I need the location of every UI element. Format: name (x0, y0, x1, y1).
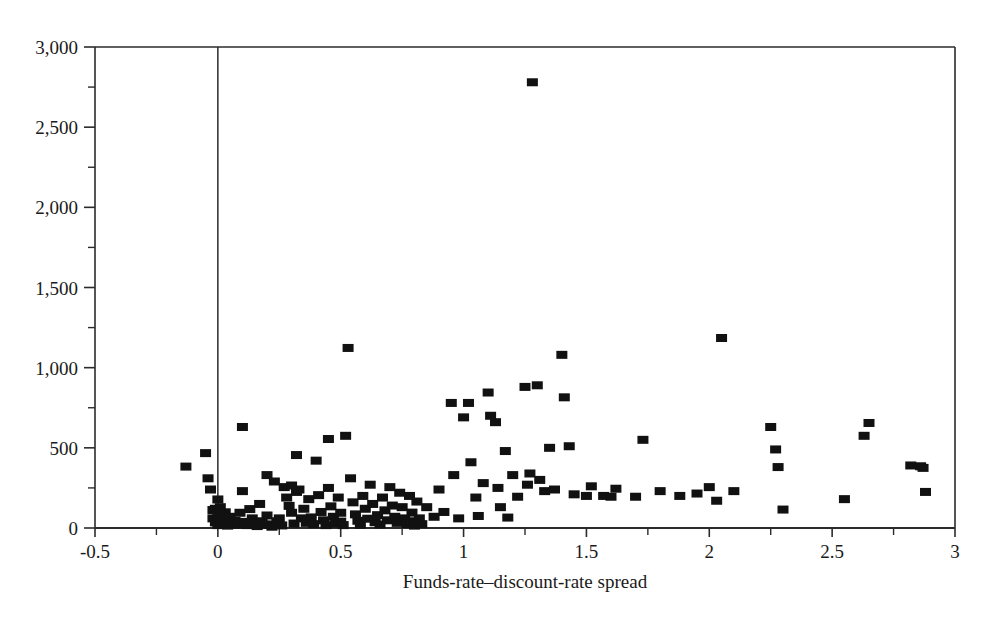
data-point (205, 486, 216, 494)
data-point (692, 490, 703, 498)
data-point (905, 461, 916, 469)
data-point (716, 334, 727, 342)
data-point (711, 497, 722, 505)
data-point (463, 399, 474, 407)
y-tick-label-0: 0 (69, 518, 79, 539)
data-point (397, 503, 408, 511)
data-point (581, 492, 592, 500)
axis-ticks (84, 47, 955, 537)
x-tick-label-3: 1 (459, 541, 469, 562)
data-point (316, 508, 327, 516)
data-point (180, 463, 191, 471)
data-point (918, 464, 929, 472)
data-point (492, 484, 503, 492)
data-point (458, 413, 469, 421)
data-point (549, 486, 560, 494)
data-point (559, 393, 570, 401)
data-point (507, 471, 518, 479)
y-tick-label-4: 2,000 (35, 197, 78, 218)
data-point (770, 445, 781, 453)
data-point (586, 482, 597, 490)
data-point (343, 344, 354, 352)
data-point (269, 478, 280, 486)
data-point (274, 514, 285, 522)
data-point (293, 486, 304, 494)
y-tick-label-6: 3,000 (35, 37, 78, 58)
data-point (291, 451, 302, 459)
data-point (520, 383, 531, 391)
data-point (539, 487, 550, 495)
data-point (313, 491, 324, 499)
data-point (465, 458, 476, 466)
data-point (429, 513, 440, 521)
data-point (655, 487, 666, 495)
data-point (483, 389, 494, 397)
y-tick-label-3: 1,500 (35, 278, 78, 299)
data-point (773, 463, 784, 471)
y-tick-label-1: 500 (50, 438, 79, 459)
data-points (180, 78, 931, 530)
data-point (556, 351, 567, 359)
data-point (298, 505, 309, 513)
data-point (237, 423, 248, 431)
y-tick-label-2: 1,000 (35, 358, 78, 379)
data-point (281, 494, 292, 502)
data-point (234, 509, 245, 517)
x-tick-label-2: 0.5 (329, 541, 353, 562)
data-point (490, 418, 501, 426)
axis-tick-labels: -0.500.511.522.5305001,0001,5002,0002,50… (35, 37, 960, 562)
data-point (564, 442, 575, 450)
data-point (203, 474, 214, 482)
data-point (338, 521, 349, 529)
data-point (367, 500, 378, 508)
data-point (674, 492, 685, 500)
plot-frame (95, 47, 955, 528)
x-axis-title: Funds-rate–discount-rate spread (403, 571, 648, 592)
data-point (348, 498, 359, 506)
data-point (630, 493, 641, 501)
data-point (544, 444, 555, 452)
y-tick-label-5: 2,500 (35, 117, 78, 138)
data-point (262, 511, 273, 519)
data-point (311, 457, 322, 465)
data-point (384, 483, 395, 491)
data-point (532, 381, 543, 389)
data-point (325, 502, 336, 510)
data-point (303, 495, 314, 503)
data-point (453, 514, 464, 522)
data-point (345, 474, 356, 482)
x-tick-label-4: 1.5 (575, 541, 599, 562)
data-point (286, 509, 297, 517)
chart-canvas: -0.500.511.522.5305001,0001,5002,0002,50… (0, 0, 998, 621)
data-point (365, 481, 376, 489)
data-point (254, 500, 265, 508)
data-point (421, 503, 432, 511)
data-point (333, 494, 344, 502)
data-point (864, 419, 875, 427)
data-point (416, 520, 427, 528)
data-point (394, 489, 405, 497)
data-point (323, 484, 334, 492)
data-point (704, 483, 715, 491)
data-point (839, 495, 850, 503)
data-point (859, 432, 870, 440)
data-point (320, 521, 331, 529)
data-point (340, 432, 351, 440)
data-point (470, 494, 481, 502)
data-point (308, 520, 319, 528)
data-point (200, 449, 211, 457)
data-point (284, 502, 295, 510)
data-point (500, 447, 511, 455)
data-point (335, 509, 346, 517)
data-point (495, 503, 506, 511)
data-point (534, 476, 545, 484)
data-point (212, 495, 223, 503)
data-point (524, 469, 535, 477)
data-point (606, 493, 617, 501)
data-point (377, 494, 388, 502)
data-point (357, 492, 368, 500)
data-point (765, 423, 776, 431)
data-point (637, 436, 648, 444)
data-point (527, 78, 538, 86)
data-point (778, 506, 789, 514)
